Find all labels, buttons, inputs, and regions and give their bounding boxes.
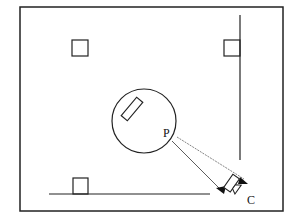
sight-line-upper	[177, 137, 244, 179]
obstacle-square-top-right	[224, 40, 240, 56]
label-p: P	[163, 126, 170, 140]
inner-rectangle	[121, 97, 143, 121]
circle-region	[112, 89, 176, 153]
diagram-canvas: P C	[0, 0, 298, 221]
arrowhead-upper	[238, 177, 248, 184]
sight-line-lower	[172, 141, 221, 190]
camera-c	[224, 174, 244, 195]
obstacle-square-top-left	[72, 40, 88, 56]
obstacle-square-bottom	[73, 178, 88, 194]
label-c: C	[247, 193, 255, 207]
